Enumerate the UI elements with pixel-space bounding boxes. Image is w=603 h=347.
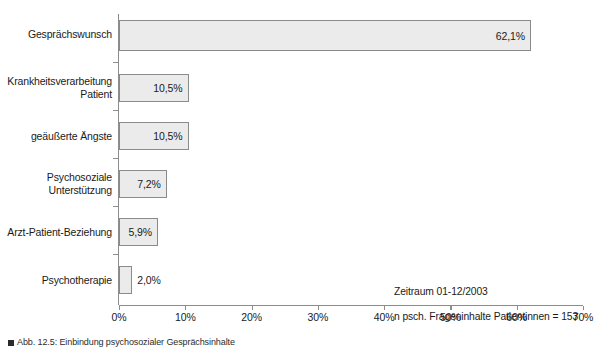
bar-krankheitsverarbeitung-patient: 10,5% bbox=[119, 74, 189, 102]
chart-annotation: Zeitraum 01-12/2003 n psch. Frageninhalt… bbox=[394, 274, 578, 336]
category-label-gespraechswunsch: Gesprächswunsch bbox=[0, 28, 112, 41]
bar-value-label: 10,5% bbox=[153, 130, 187, 142]
category-label-krankheitsverarbeitung-patient: Krankheitsverarbeitung Patient bbox=[0, 75, 112, 100]
bar-value-label: 62,1% bbox=[496, 30, 530, 42]
y-axis-line bbox=[118, 14, 119, 305]
x-tick-label: 0% bbox=[99, 311, 139, 323]
bar-row: Psychosoziale Unterstützung 7,2% bbox=[0, 170, 603, 198]
bar-arzt-patient-beziehung: 5,9% bbox=[119, 218, 158, 246]
bar-psychosoziale-unterstuetzung: 7,2% bbox=[119, 170, 167, 198]
x-axis-tick bbox=[318, 306, 319, 310]
caption-marker-icon bbox=[8, 340, 14, 346]
figure-caption: Abb. 12.5: Einbindung psychosozialer Ges… bbox=[8, 338, 568, 347]
category-label-geaeusserte-aengste: geäußerte Ängste bbox=[0, 130, 112, 143]
bar-geaeusserte-aengste: 10,5% bbox=[119, 122, 189, 150]
bar-value-label: 5,9% bbox=[129, 226, 158, 238]
bar-value-label: 7,2% bbox=[137, 178, 166, 190]
bar-row: Krankheitsverarbeitung Patient 10,5% bbox=[0, 74, 603, 102]
bar-row: Arzt-Patient-Beziehung 5,9% bbox=[0, 218, 603, 246]
figure-caption-text: Abb. 12.5: Einbindung psychosozialer Ges… bbox=[8, 338, 235, 347]
bar-psychotherapie bbox=[119, 266, 132, 294]
bar-chart: Gesprächswunsch 62,1% Krankheitsverarbei… bbox=[0, 0, 603, 347]
annotation-period: Zeitraum 01-12/2003 bbox=[394, 286, 578, 298]
y-axis-tick bbox=[113, 62, 119, 63]
y-axis-tick bbox=[113, 158, 119, 159]
y-axis-tick bbox=[113, 110, 119, 111]
x-tick-label: 10% bbox=[165, 311, 205, 323]
bar-row: Gesprächswunsch 62,1% bbox=[0, 20, 603, 51]
category-label-psychosoziale-unterstuetzung: Psychosoziale Unterstützung bbox=[0, 171, 112, 196]
y-axis-tick bbox=[113, 206, 119, 207]
y-axis-tick bbox=[113, 254, 119, 255]
annotation-sample-size: n psch. Frageninhalte Patientinnen = 153 bbox=[394, 311, 578, 323]
figure-caption-label: Abb. 12.5: Einbindung psychosozialer Ges… bbox=[17, 338, 235, 347]
x-axis-tick bbox=[119, 306, 120, 310]
bar-gespraechswunsch: 62,1% bbox=[119, 20, 531, 51]
x-axis-tick bbox=[185, 306, 186, 310]
x-axis-tick bbox=[583, 306, 584, 310]
x-axis-tick bbox=[384, 306, 385, 310]
x-tick-label: 30% bbox=[298, 311, 338, 323]
bar-value-label: 10,5% bbox=[153, 82, 187, 94]
bar-row: geäußerte Ängste 10,5% bbox=[0, 122, 603, 150]
category-label-arzt-patient-beziehung: Arzt-Patient-Beziehung bbox=[0, 226, 112, 239]
category-label-psychotherapie: Psychotherapie bbox=[0, 274, 112, 287]
x-tick-label: 20% bbox=[232, 311, 272, 323]
bar-value-label: 2,0% bbox=[132, 266, 161, 294]
x-axis-tick bbox=[252, 306, 253, 310]
